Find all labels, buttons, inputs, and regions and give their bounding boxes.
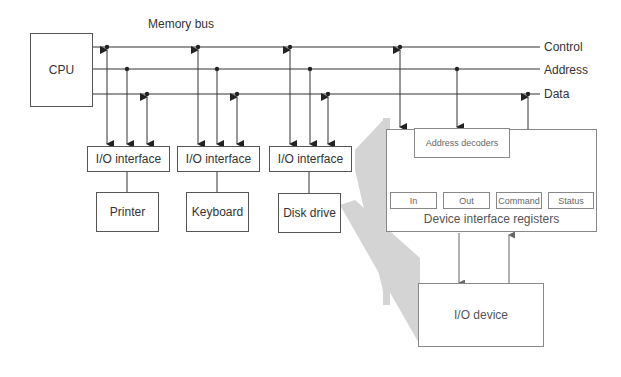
memory-bus-label: Memory bus [148, 17, 214, 31]
io-interface-label: I/O interface [186, 152, 251, 166]
cpu-label: CPU [49, 63, 74, 77]
io-interface-keyboard: I/O interface [177, 146, 260, 172]
io-interface-label: I/O interface [96, 152, 161, 166]
device-disk-drive: Disk drive [278, 193, 341, 233]
io-device-box: I/O device [418, 283, 544, 347]
bus-label-data: Data [544, 87, 569, 101]
register-command: Command [496, 192, 542, 209]
register-label: Status [558, 196, 584, 206]
device-label: Disk drive [283, 206, 336, 220]
register-in: In [390, 192, 437, 209]
register-label: Command [498, 196, 540, 206]
register-out: Out [443, 192, 490, 209]
decoder-label: Address decoders [426, 138, 499, 148]
device-keyboard: Keyboard [186, 192, 249, 232]
device-label: Keyboard [192, 205, 243, 219]
io-interface-label: I/O interface [278, 152, 343, 166]
registers-caption: Device interface registers [424, 212, 559, 226]
address-decoders-box: Address decoders [414, 128, 510, 158]
register-status: Status [548, 192, 594, 209]
bus-label-control: Control [544, 40, 583, 54]
cpu-box: CPU [30, 33, 93, 107]
io-device-label: I/O device [454, 308, 508, 322]
device-label: Printer [110, 205, 145, 219]
io-interface-disk: I/O interface [269, 146, 352, 172]
register-label: In [410, 196, 418, 206]
bus-label-address: Address [544, 63, 588, 77]
register-label: Out [459, 196, 474, 206]
io-interface-printer: I/O interface [87, 146, 170, 172]
device-printer: Printer [96, 192, 159, 232]
